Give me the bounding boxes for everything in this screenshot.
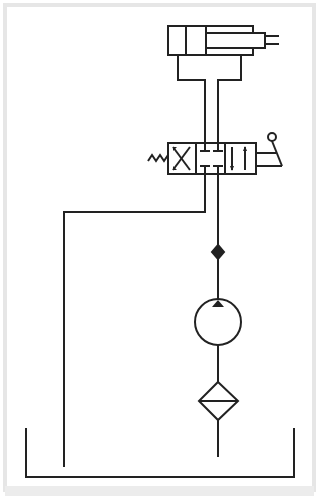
frame-border: [5, 5, 314, 496]
hand-lever-icon: [256, 133, 282, 166]
valve-flow-arrows: [173, 146, 247, 171]
hydraulic-pump-icon: [195, 299, 241, 345]
filter-icon: [199, 382, 238, 420]
check-valve-icon: [212, 245, 224, 259]
double-acting-cylinder: [168, 26, 279, 55]
hydraulic-circuit-diagram: [0, 0, 319, 500]
diagram-frame: [0, 0, 319, 500]
return-spring-icon: [148, 155, 168, 161]
reservoir-tank: [26, 428, 294, 477]
directional-control-valve: [168, 143, 256, 174]
tank-return-line: [64, 174, 205, 467]
cylinder-port-lines: [178, 55, 241, 143]
